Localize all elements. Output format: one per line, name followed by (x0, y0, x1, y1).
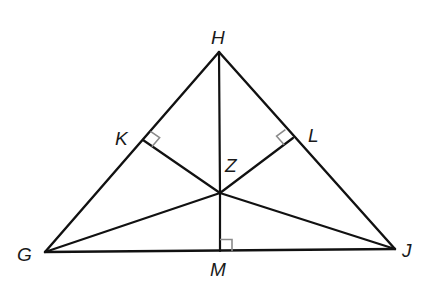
triangle-diagram: H K L Z G M J (0, 0, 427, 286)
label-z: Z (224, 155, 238, 176)
right-angle-marker-l (277, 130, 286, 145)
label-k: K (115, 128, 129, 149)
label-l: L (308, 125, 319, 146)
right-angle-marker-k (151, 131, 160, 146)
side-hj (219, 52, 395, 249)
label-j: J (401, 240, 412, 261)
label-g: G (17, 244, 32, 265)
segment-hz (219, 52, 220, 193)
segment-zk (143, 140, 220, 193)
label-m: M (210, 259, 226, 280)
label-h: H (211, 27, 225, 48)
